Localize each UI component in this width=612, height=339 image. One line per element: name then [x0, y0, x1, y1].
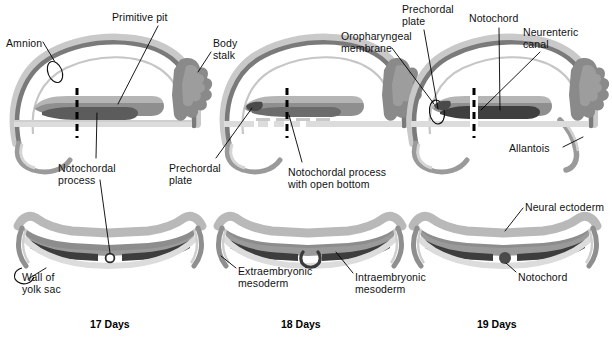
label-allantois: Allantois [509, 143, 550, 155]
transverse-section-day19 [413, 216, 597, 266]
day-caption-19: 19 Days [477, 318, 517, 330]
figure-canvas: Amnion Primitive pit Body stalk Notochor… [0, 0, 612, 339]
label-wall-of-yolk-sac: Wall of yolk sac [22, 272, 61, 295]
label-primitive-pit: Primitive pit [112, 12, 168, 24]
label-neural-ectoderm: Neural ectoderm [525, 202, 604, 214]
label-notochord-bottom: Notochord [518, 272, 567, 284]
day-caption-18: 18 Days [281, 318, 321, 330]
label-prechordal-plate-2: Prechordal plate [402, 4, 454, 27]
label-notochordal-process-open-bottom: Notochordal process with open bottom [288, 167, 386, 190]
sagittal-section-day18 [224, 38, 423, 172]
leader-lines [28, 26, 583, 279]
sagittal-section-day17 [14, 38, 213, 172]
label-neurenteric-canal: Neurenteric canal [523, 27, 578, 50]
label-prechordal-plate: Prechordal plate [169, 163, 221, 186]
label-amnion: Amnion [6, 38, 42, 50]
label-notochordal-process: Notochordal process [58, 163, 116, 186]
label-oropharyngeal-membrane: Oropharyngeal membrane [341, 31, 412, 54]
notochord-disc [499, 252, 511, 264]
label-intraembryonic-mesoderm: Intraembryonic mesoderm [355, 272, 426, 295]
label-notochord-top: Notochord [469, 13, 518, 25]
transverse-section-day18 [218, 216, 402, 267]
label-extraembryonic-mesoderm: Extraembryonic mesoderm [238, 266, 312, 289]
day-caption-17: 17 Days [90, 318, 130, 330]
label-body-stalk: Body stalk [213, 38, 237, 61]
notochordal-canal-ring [106, 254, 115, 263]
